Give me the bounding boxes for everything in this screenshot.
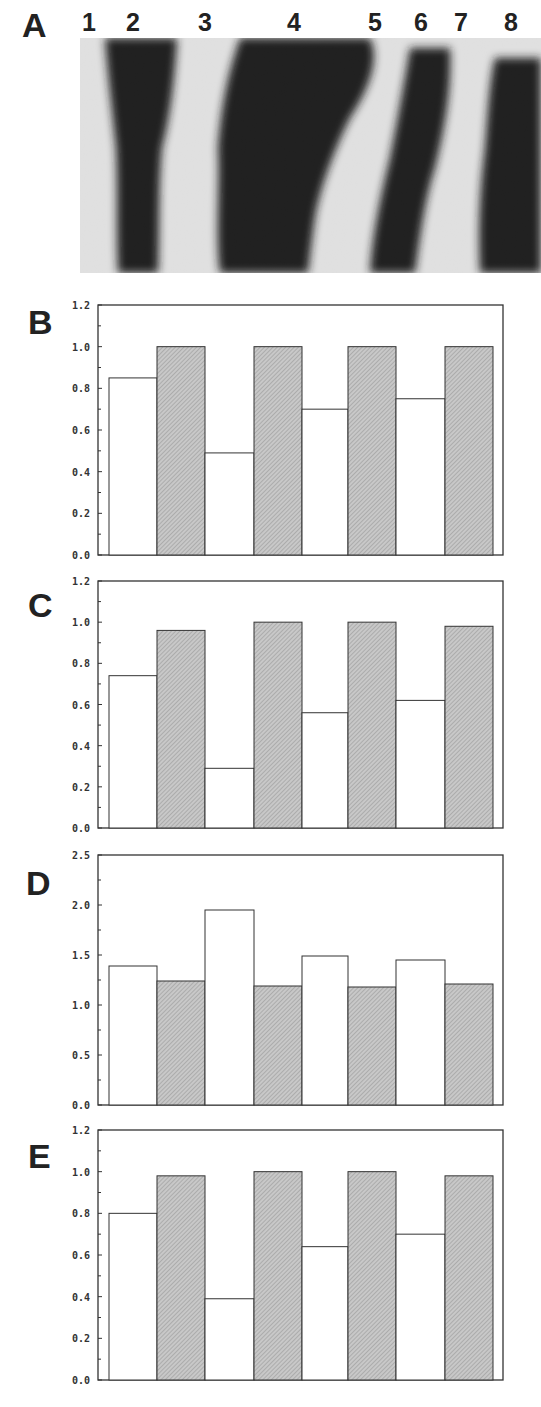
open-bar <box>205 1299 254 1380</box>
shaded-bar <box>348 1172 396 1380</box>
shaded-bar <box>254 1172 302 1380</box>
bar-chart: 0.00.20.40.60.81.01.2 <box>0 0 541 1407</box>
shaded-bar <box>445 1176 493 1380</box>
open-bar <box>302 1247 348 1380</box>
open-bar <box>396 1234 445 1380</box>
y-tick-label: 0.4 <box>72 1292 90 1303</box>
open-bar <box>109 1213 157 1380</box>
y-tick-label: 0.8 <box>72 1208 90 1219</box>
y-tick-label: 0.0 <box>72 1375 90 1386</box>
y-tick-label: 0.2 <box>72 1333 90 1344</box>
shaded-bar <box>157 1176 205 1380</box>
y-tick-label: 1.0 <box>72 1167 90 1178</box>
y-tick-label: 0.6 <box>72 1250 90 1261</box>
y-tick-label: 1.2 <box>72 1125 90 1136</box>
